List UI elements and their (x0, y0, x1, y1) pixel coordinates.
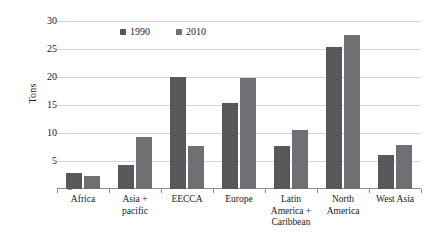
x-axis-category-label: Asia +pacific (109, 194, 161, 229)
category-label-line: Europe (214, 194, 264, 206)
bar-1990 (118, 165, 134, 189)
bar-group (161, 21, 213, 189)
category-label-line: Latin (266, 194, 316, 206)
y-axis-tick-label: 5 (31, 156, 57, 166)
x-axis-tick-mark (57, 189, 58, 193)
x-axis-tick-mark (265, 189, 266, 193)
category-label-line: Asia + (110, 194, 160, 206)
x-axis-tick-mark (369, 189, 370, 193)
y-axis-tick-label: 25 (31, 44, 57, 54)
legend-entry: 1990 (120, 27, 150, 37)
legend-swatch-icon (176, 29, 182, 35)
x-axis-tick-mark (109, 189, 110, 193)
y-axis-tick-label: 20 (31, 72, 57, 82)
x-axis-tick-mark (317, 189, 318, 193)
x-axis-category-label: Europe (213, 194, 265, 229)
bar-2010 (344, 35, 360, 189)
bar-1990 (66, 173, 82, 189)
bar-2010 (292, 130, 308, 189)
category-label-line: America + (266, 206, 316, 218)
y-axis-tick-label: 15 (31, 100, 57, 110)
category-label-line: pacific (110, 206, 160, 218)
bar-group (213, 21, 265, 189)
bar-group (317, 21, 369, 189)
bar-1990 (170, 77, 186, 189)
legend-label: 1990 (130, 27, 150, 37)
legend-label: 2010 (186, 27, 206, 37)
bar-1990 (222, 103, 238, 189)
bar-groups (57, 21, 421, 189)
bar-2010 (136, 137, 152, 189)
bar-1990 (274, 146, 290, 189)
chart-legend: 19902010 (120, 27, 206, 37)
x-axis-category-labels: AfricaAsia +pacificEECCAEuropeLatinAmeri… (57, 194, 421, 229)
bar-group (57, 21, 109, 189)
y-axis-tick-label: 30 (31, 16, 57, 26)
bar-2010 (84, 176, 100, 189)
x-axis-ticks (57, 189, 421, 193)
x-axis-category-label: LatinAmerica +Caribbean (265, 194, 317, 229)
bar-chart: Tons 51015202530 AfricaAsia +pacificEECC… (0, 0, 431, 238)
bar-2010 (396, 145, 412, 189)
bar-2010 (240, 78, 256, 189)
x-axis-tick-mark (213, 189, 214, 193)
category-label-line: America (318, 206, 368, 218)
category-label-line: West Asia (370, 194, 420, 206)
x-axis-category-label: West Asia (369, 194, 421, 229)
bar-2010 (188, 146, 204, 189)
category-label-line: EECCA (162, 194, 212, 206)
category-label-line: North (318, 194, 368, 206)
bar-1990 (378, 155, 394, 189)
bar-group (109, 21, 161, 189)
bar-group (369, 21, 421, 189)
x-axis-tick-mark (161, 189, 162, 193)
x-axis-category-label: NorthAmerica (317, 194, 369, 229)
x-axis-category-label: Africa (57, 194, 109, 229)
legend-swatch-icon (120, 29, 126, 35)
x-axis-tick-mark (421, 189, 422, 193)
legend-entry: 2010 (176, 27, 206, 37)
bar-1990 (326, 47, 342, 189)
category-label-line: Caribbean (266, 217, 316, 229)
y-axis-tick-label: 10 (31, 128, 57, 138)
y-axis-labels: 51015202530 (16, 0, 57, 238)
bar-group (265, 21, 317, 189)
x-axis-category-label: EECCA (161, 194, 213, 229)
category-label-line: Africa (58, 194, 108, 206)
